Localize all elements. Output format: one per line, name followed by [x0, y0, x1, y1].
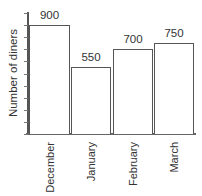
x-label-march: March: [168, 142, 180, 173]
bar-march: [154, 43, 194, 134]
value-label-january: 550: [71, 51, 111, 63]
value-label-december: 900: [30, 9, 70, 21]
value-label-march: 750: [154, 27, 194, 39]
y-tick: [24, 110, 28, 111]
y-tick: [24, 25, 28, 26]
value-label-february: 700: [113, 33, 153, 45]
bar-february: [113, 49, 153, 134]
y-tick: [24, 98, 28, 99]
y-tick: [24, 49, 28, 50]
x-label-february: February: [127, 142, 139, 186]
y-tick: [24, 61, 28, 62]
y-tick: [24, 86, 28, 87]
y-tick: [24, 74, 28, 75]
y-tick: [24, 13, 28, 14]
y-tick: [24, 134, 28, 135]
bar-january: [71, 67, 111, 134]
bar-chart: Number of diners 900 550 700 750 Decembe…: [0, 0, 202, 196]
y-tick: [24, 37, 28, 38]
y-axis-label: Number of diners: [7, 29, 19, 117]
x-label-december: December: [44, 142, 56, 193]
bar-december: [29, 25, 70, 134]
y-tick: [24, 122, 28, 123]
x-label-january: January: [85, 142, 97, 181]
